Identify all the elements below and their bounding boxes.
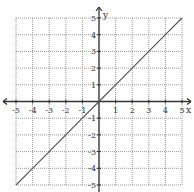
- x-tick-label: -2: [62, 106, 70, 115]
- y-tick-label: -3: [88, 148, 96, 157]
- y-tick-label: 3: [91, 47, 96, 56]
- x-tick-label: -5: [12, 106, 20, 115]
- y-tick-label: 5: [91, 14, 96, 23]
- y-tick-label: -5: [88, 181, 96, 190]
- x-tick-label: -3: [45, 106, 53, 115]
- x-tick-label: 5: [179, 106, 184, 115]
- y-tick-label: -1: [88, 114, 96, 123]
- x-tick-label: 3: [146, 106, 151, 115]
- y-tick-label: 1: [91, 81, 96, 90]
- coordinate-plane: -5-4-3-2-112345-5-4-3-2-112345 x y: [0, 0, 194, 192]
- x-tick-label: 4: [163, 106, 168, 115]
- x-tick-label: 2: [130, 106, 135, 115]
- x-tick-label: 1: [113, 106, 118, 115]
- y-axis-label: y: [102, 10, 109, 20]
- x-tick-label: -4: [29, 106, 37, 115]
- x-axis-label: x: [186, 105, 191, 115]
- y-tick-label: -4: [88, 164, 96, 173]
- y-tick-label: -2: [88, 131, 96, 140]
- x-tick-label: -1: [79, 106, 87, 115]
- y-tick-label: 2: [91, 64, 96, 73]
- y-tick-label: 4: [91, 31, 96, 40]
